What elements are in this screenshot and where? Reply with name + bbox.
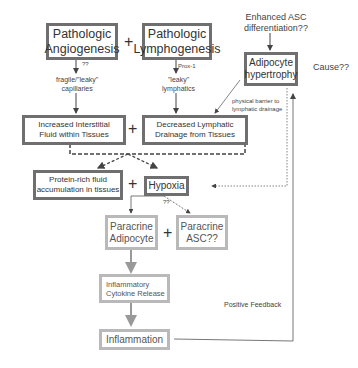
- plus-operator: +: [163, 224, 172, 242]
- node-paracrine-adipocyte: Paracrine Adipocyte: [105, 215, 158, 250]
- label-positive-feedback: Positive Feedback: [224, 301, 281, 308]
- node-increased-interstitial-fluid: Increased Interstitial Fluid within Tiss…: [22, 115, 126, 145]
- plus-operator: +: [128, 175, 137, 193]
- plus-operator: +: [128, 120, 137, 138]
- label-fragile-capillaries: fragile/"leaky" capillaries: [56, 75, 98, 93]
- label-hypoxia-question: ??: [163, 199, 170, 205]
- node-label: Pathologic Lymphogenesis: [133, 27, 220, 57]
- node-label: Pathologic Angiogenesis: [44, 27, 119, 57]
- label-enhanced-asc: Enhanced ASC differentiation??: [244, 12, 308, 35]
- node-label: Adipocyte hypertrophy: [245, 57, 298, 81]
- label-angio-question: ??: [82, 61, 89, 67]
- arrow-bracket-hypoxia: [128, 154, 157, 168]
- node-label: Increased Interstitial Fluid within Tiss…: [38, 120, 110, 139]
- node-label: Hypoxia: [148, 180, 184, 192]
- dashed-bracket: [70, 144, 245, 154]
- label-prox1: Prox-1: [178, 63, 196, 69]
- node-label: Protein-rich fluid accumulation in tissu…: [37, 175, 120, 194]
- node-pathologic-angiogenesis: Pathologic Angiogenesis: [46, 23, 118, 60]
- node-hypoxia: Hypoxia: [144, 176, 189, 196]
- node-inflammation: Inflammation: [99, 329, 170, 350]
- node-decreased-lymphatic-drainage: Decreased Lymphatic Drainage from Tissue…: [142, 115, 248, 145]
- node-label: Inflammatory Cytokine Release: [106, 280, 165, 298]
- label-physical-barrier: physical barrier to lymphatic drainage: [232, 98, 282, 114]
- node-label: Decreased Lymphatic Drainage from Tissue…: [155, 120, 235, 139]
- node-protein-rich-fluid: Protein-rich fluid accumulation in tissu…: [33, 170, 123, 200]
- node-label: Paracrine Adipocyte: [110, 221, 154, 245]
- node-pathologic-lymphogenesis: Pathologic Lymphogenesis: [142, 23, 212, 60]
- arrow-hypoxia-paracrine-adipocyte: [131, 196, 164, 213]
- node-label: Inflammation: [106, 334, 163, 346]
- node-label: Paracrine ASC??: [181, 221, 224, 245]
- label-cause: Cause??: [313, 62, 349, 72]
- arrow-bracket-protein: [98, 154, 128, 168]
- plus-operator: +: [124, 33, 133, 51]
- node-inflammatory-cytokine: Inflammatory Cytokine Release: [99, 274, 170, 303]
- node-paracrine-asc: Paracrine ASC??: [176, 215, 228, 250]
- label-leaky-lymphatics: "leaky" lymphatics: [162, 75, 195, 93]
- node-adipocyte-hypertrophy: Adipocyte hypertrophy: [244, 52, 298, 86]
